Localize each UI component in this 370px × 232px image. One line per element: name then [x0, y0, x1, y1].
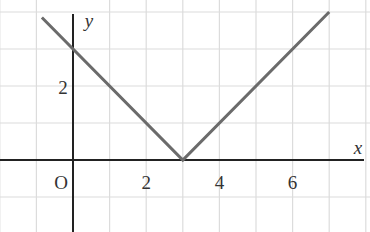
origin-label: O [54, 172, 68, 193]
graph-figure: 2462Oxy [0, 0, 370, 232]
x-tick-label: 6 [288, 172, 298, 193]
x-axis-label: x [353, 137, 363, 158]
axis-labels: 2462Oxy [54, 10, 363, 193]
y-axis-label: y [83, 10, 94, 31]
x-tick-label: 2 [141, 172, 151, 193]
y-tick-label: 2 [58, 77, 68, 98]
grid [0, 0, 370, 232]
x-tick-label: 4 [215, 172, 225, 193]
graph-svg: 2462Oxy [0, 0, 370, 232]
